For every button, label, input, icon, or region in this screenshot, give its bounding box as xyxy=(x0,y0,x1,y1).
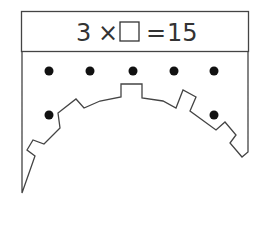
equation-equals-sign: = xyxy=(146,19,166,47)
dot xyxy=(129,67,138,76)
equation-left-operand: 3 xyxy=(76,19,91,47)
dot xyxy=(210,67,219,76)
dot xyxy=(170,67,179,76)
dot xyxy=(45,111,54,120)
multiplication-diagram: 3 × = 15 xyxy=(0,0,269,230)
equation-result: 15 xyxy=(167,19,198,47)
dot xyxy=(86,67,95,76)
equation-times-sign: × xyxy=(98,19,118,47)
dots xyxy=(45,67,219,120)
dot xyxy=(45,67,54,76)
equation-blank-box[interactable] xyxy=(120,22,139,41)
dot xyxy=(210,111,219,120)
